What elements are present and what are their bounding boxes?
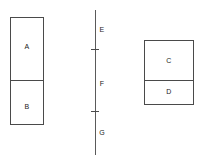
left-rectangle-divider (10, 80, 44, 81)
region-label-c: C (159, 57, 179, 65)
diagram-canvas: A B E F G C D (0, 0, 204, 163)
right-rectangle-divider (144, 80, 194, 81)
axis-tick-lower (91, 111, 99, 112)
region-label-b: B (17, 103, 37, 111)
region-label-a: A (17, 43, 37, 51)
axis-tick-upper (91, 49, 99, 50)
segment-label-e: E (92, 26, 112, 34)
region-label-d: D (159, 88, 179, 96)
segment-label-f: F (92, 80, 112, 88)
segment-label-g: G (92, 129, 112, 137)
